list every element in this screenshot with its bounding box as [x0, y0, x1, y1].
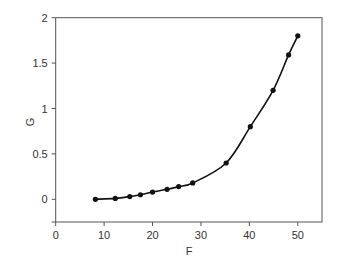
y-tick-label: 1.5	[32, 57, 47, 69]
data-point	[138, 192, 143, 197]
data-point	[295, 33, 300, 38]
x-axis-label: F	[186, 245, 193, 257]
x-tick-label: 50	[292, 229, 304, 241]
y-tick-label: 0	[42, 193, 48, 205]
chart: 01020304050 00.511.52 F G	[0, 0, 339, 266]
data-point	[190, 180, 195, 185]
x-tick-label: 10	[98, 229, 110, 241]
plot-border	[56, 18, 322, 222]
data-point	[224, 160, 229, 165]
y-tick-label: 2	[42, 12, 48, 24]
data-point	[113, 196, 118, 201]
data-point	[164, 187, 169, 192]
y-axis-ticks: 00.511.52	[32, 12, 55, 222]
x-tick-label: 0	[53, 229, 59, 241]
y-tick-label: 0.5	[32, 148, 47, 160]
x-tick-label: 30	[195, 229, 207, 241]
x-axis-ticks: 01020304050	[53, 222, 304, 241]
x-tick-label: 40	[243, 229, 255, 241]
series-line	[95, 36, 297, 199]
data-point	[93, 197, 98, 202]
data-series	[93, 33, 301, 202]
y-axis-label: G	[24, 118, 36, 127]
data-point	[248, 124, 253, 129]
data-point	[150, 189, 155, 194]
data-point	[176, 184, 181, 189]
plot-frame	[56, 18, 322, 222]
x-tick-label: 20	[146, 229, 158, 241]
data-point	[286, 52, 291, 57]
data-point	[127, 194, 132, 199]
y-tick-label: 1	[42, 103, 48, 115]
data-point	[270, 88, 275, 93]
